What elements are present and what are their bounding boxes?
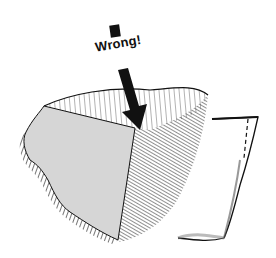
illustration: Wrong! [0,0,276,258]
